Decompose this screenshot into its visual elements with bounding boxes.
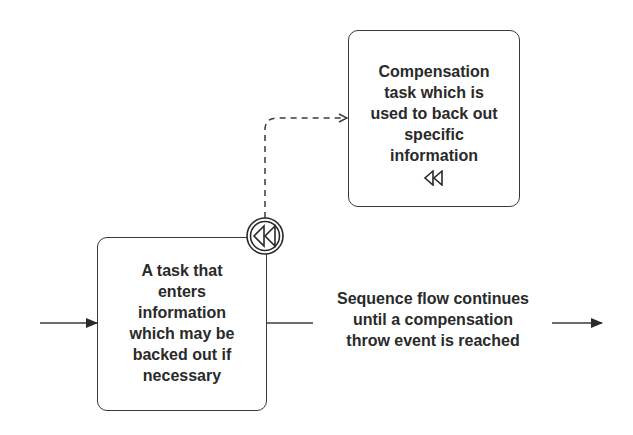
compensation-rewind-icon [423,170,445,186]
main-task[interactable]: A task that enters information which may… [97,237,267,411]
connectors [0,0,633,435]
compensation-task-label: Compensation task which is used to back … [370,61,497,166]
sequence-flow-label: Sequence flow continues until a compensa… [313,288,553,351]
main-task-label: A task that enters information which may… [130,260,235,386]
diagram-canvas: A task that enters information which may… [0,0,633,435]
compensation-task[interactable]: Compensation task which is used to back … [348,30,520,207]
boundary-event-layer [0,0,633,435]
compensation-association[interactable] [265,118,347,218]
